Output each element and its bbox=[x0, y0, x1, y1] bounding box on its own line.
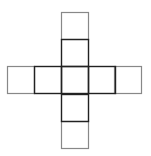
square-left-inner bbox=[35, 67, 62, 94]
square-top-outer bbox=[62, 13, 89, 40]
square-bottom-inner bbox=[62, 95, 89, 122]
square-top-inner bbox=[62, 40, 89, 67]
square-bottom-outer bbox=[62, 122, 89, 149]
square-center bbox=[62, 67, 89, 94]
squares-group bbox=[8, 13, 142, 149]
square-right-inner bbox=[89, 67, 116, 94]
cross-diagram bbox=[0, 0, 151, 156]
square-right-outer bbox=[115, 67, 142, 94]
square-left-outer bbox=[8, 67, 35, 94]
